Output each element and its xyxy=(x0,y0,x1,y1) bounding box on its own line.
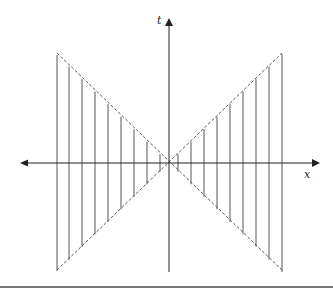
x-axis-label: x xyxy=(304,168,311,181)
bottom-rule xyxy=(0,286,333,288)
x-axis-left-arrow-icon xyxy=(20,160,28,167)
t-axis-label: t xyxy=(157,14,162,27)
light-cone-diagram: t x xyxy=(0,0,333,293)
